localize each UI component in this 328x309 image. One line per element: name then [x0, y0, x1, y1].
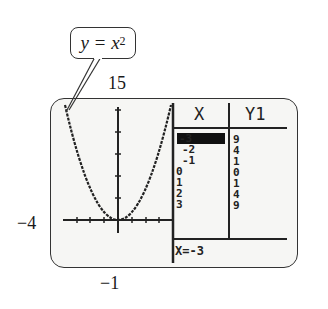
ymin-label: −1 [100, 274, 119, 292]
function-label-exponent: 2 [120, 34, 126, 49]
function-label-base: y = x [80, 32, 119, 54]
ymax-label: 15 [108, 74, 126, 92]
table-cell-x: 3 [176, 199, 183, 210]
table-cell-y1: 9 [233, 200, 240, 211]
graph-panel [51, 99, 297, 267]
calculator-screen: X Y1 -3 -2 -1 0 1 2 3 9 4 1 0 1 4 9 X=-3 [50, 98, 298, 268]
axes [63, 107, 173, 233]
table-header-x: X [194, 106, 204, 123]
table-footer-status: X=-3 [175, 245, 204, 257]
table-header-y1: Y1 [245, 106, 265, 123]
table-cell-x: -1 [182, 155, 195, 166]
xmin-label: −4 [17, 214, 36, 232]
function-label-callout: y = x2 [70, 27, 136, 59]
